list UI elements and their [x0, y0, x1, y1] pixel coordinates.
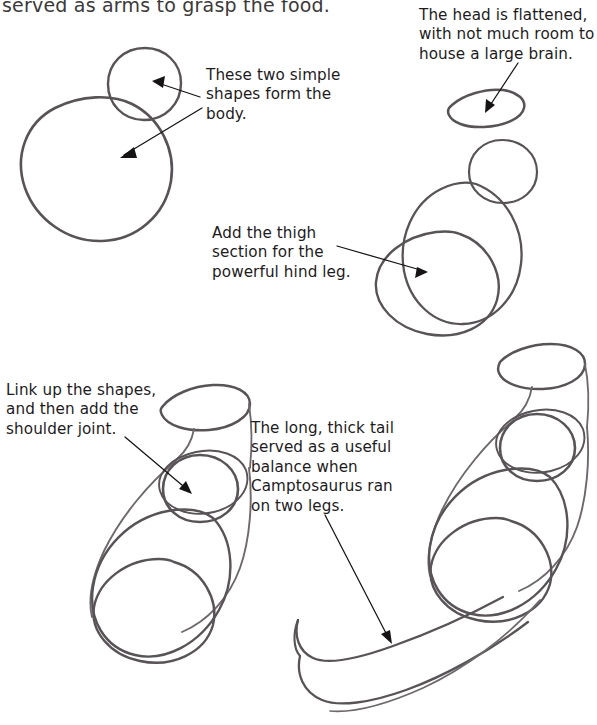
step4-head-ellipse-shape — [498, 344, 585, 389]
step4-thigh-ellipse-shape — [430, 518, 551, 622]
arrow-to-tail — [325, 515, 392, 644]
step-2-drawing — [337, 63, 537, 335]
step2-head-circle-shape — [469, 140, 537, 203]
callout-long-thick-tail: The long, thick tail served as a useful … — [251, 419, 421, 516]
step3-thigh-ellipse-shape — [93, 559, 214, 663]
callout-body-shapes: These two simple shapes form the body. — [206, 66, 366, 124]
step2-body-ellipse-shape — [403, 183, 522, 324]
arrow-to-head-circle — [152, 76, 200, 97]
head-circle-shape — [108, 48, 181, 120]
tail-lower-contour — [299, 622, 528, 703]
step4-torso-outline — [519, 427, 588, 591]
arrow-to-flattened-head — [485, 63, 518, 113]
step4-neck-line-right — [585, 364, 588, 427]
tail-upper-contour — [297, 597, 503, 661]
step-4-drawing — [294, 344, 588, 711]
callout-shoulder-joint: Link up the shapes, and then add the sho… — [6, 381, 186, 439]
callout-thigh-section: Add the thigh section for the powerful h… — [212, 224, 392, 282]
step3-torso-outline — [182, 468, 251, 632]
callout-head-flattened: The head is flattened, with not much roo… — [419, 6, 597, 64]
step-1-drawing — [21, 48, 202, 241]
